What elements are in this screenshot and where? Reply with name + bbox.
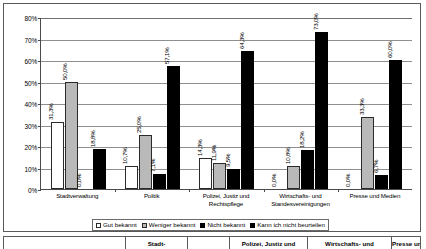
- bar-group: 10,7%25,0%7,1%57,1%: [115, 18, 189, 189]
- bar-value-label: 31,3%: [47, 103, 54, 120]
- y-axis-tick-label: 70%: [25, 36, 37, 43]
- bar-group-bars: 14,3%11,9%9,5%64,3%: [189, 18, 263, 189]
- bar[interactable]: [361, 117, 374, 189]
- legend-item[interactable]: Weniger bekannt: [142, 221, 196, 229]
- bar-slot: 18,8%: [93, 18, 106, 189]
- bar[interactable]: [167, 66, 180, 189]
- table-header-cell: Polizei, Justiz und: [230, 237, 308, 249]
- bar[interactable]: [389, 60, 402, 189]
- bar[interactable]: [125, 166, 138, 189]
- bar-slot: 14,3%: [199, 18, 212, 189]
- bar[interactable]: [153, 174, 166, 189]
- bar-slot: 7,1%: [153, 18, 166, 189]
- table-header-cell: [4, 237, 126, 249]
- table-header-cell: Stadt-: [126, 237, 188, 249]
- bar-slot: 73,0%: [315, 18, 328, 189]
- category-label-2: Politik: [114, 192, 188, 212]
- chart-frame: 0%10%20%30%40%50%60%70%80% 31,3%50,0%0,0…: [3, 3, 421, 232]
- legend-item[interactable]: Nicht bekannt: [200, 221, 245, 229]
- bar-slot: 60,0%: [389, 18, 402, 189]
- legend-label: Weniger bekannt: [149, 221, 196, 229]
- legend-label: Nicht bekannt: [207, 221, 245, 229]
- category-label-3: Polizei, Justiz und Rechtspflege: [189, 192, 263, 212]
- bar-group: 14,3%11,9%9,5%64,3%: [189, 18, 263, 189]
- y-tick-mark: [38, 190, 41, 191]
- bar-value-label: 0,0%: [269, 174, 276, 187]
- y-axis-tick-label: 0%: [28, 187, 37, 194]
- bar-value-label: 10,7%: [121, 147, 128, 164]
- category-label-1: Stadtverwaltung: [40, 192, 114, 212]
- y-axis-tick-label: 10%: [25, 165, 37, 172]
- bar[interactable]: [287, 166, 300, 189]
- plot-area: 0%10%20%30%40%50%60%70%80% 31,3%50,0%0,0…: [40, 18, 412, 190]
- bar-value-label: 33,3%: [357, 99, 364, 116]
- legend-label: Gut bekannt: [103, 221, 137, 229]
- category-axis-labels: StadtverwaltungPolitikPolizei, Justiz un…: [40, 192, 412, 212]
- category-label-4: Wirtschafts- und Standesvereinigungen: [263, 192, 337, 212]
- legend-swatch-icon: [200, 223, 205, 228]
- chart-legend: Gut bekanntWeniger bekanntNicht bekanntK…: [92, 219, 329, 231]
- bar[interactable]: [213, 163, 226, 189]
- legend-label: Kann ich nicht beurteilen: [257, 221, 325, 229]
- bar-value-label: 73,0%: [311, 14, 318, 31]
- legend-swatch-icon: [96, 223, 101, 228]
- bar-value-label: 0,0%: [343, 174, 350, 187]
- bar-value-label: 50,0%: [61, 63, 68, 80]
- table-header-cell: Presse und: [392, 237, 421, 249]
- y-axis-tick-label: 60%: [25, 58, 37, 65]
- bar-group-bars: 0,0%33,3%6,7%60,0%: [338, 18, 412, 189]
- bar-slot: 57,1%: [167, 18, 180, 189]
- y-axis-tick-label: 30%: [25, 122, 37, 129]
- bar-group: 31,3%50,0%0,0%18,8%: [41, 18, 115, 189]
- bar[interactable]: [227, 169, 240, 189]
- bar-value-label: 6,7%: [371, 159, 378, 172]
- bar[interactable]: [93, 149, 106, 189]
- bar-slot: 50,0%: [65, 18, 78, 189]
- bar-value-label: 60,0%: [385, 41, 392, 58]
- data-table-header-row: Stadt-Polizei, Justiz undWirtschafts- un…: [3, 236, 421, 249]
- bar-value-label: 25,0%: [135, 117, 142, 134]
- bar[interactable]: [315, 32, 328, 189]
- bar-group: 0,0%33,3%6,7%60,0%: [338, 18, 412, 189]
- y-axis-tick-label: 20%: [25, 144, 37, 151]
- bar-value-label: 10,8%: [283, 147, 290, 164]
- bar-value-label: 11,9%: [209, 145, 216, 161]
- category-label-5: Presse und Medien: [338, 192, 412, 212]
- bar[interactable]: [51, 122, 64, 189]
- bar-value-label: 9,5%: [223, 153, 230, 166]
- bar-group-bars: 10,7%25,0%7,1%57,1%: [115, 18, 189, 189]
- y-axis-tick-label: 50%: [25, 79, 37, 86]
- table-header-cell: Wirtschafts- und: [308, 237, 392, 249]
- legend-item[interactable]: Gut bekannt: [96, 221, 137, 229]
- bar[interactable]: [241, 51, 254, 189]
- bar-value-label: 7,1%: [149, 158, 156, 171]
- bar-group-bars: 31,3%50,0%0,0%18,8%: [41, 18, 115, 189]
- bar-value-label: 57,1%: [163, 48, 170, 65]
- bar-group-bars: 0,0%10,8%18,2%73,0%: [264, 18, 338, 189]
- legend-item[interactable]: Kann ich nicht beurteilen: [250, 221, 325, 229]
- bar-slot: 10,8%: [287, 18, 300, 189]
- bar-value-label: 64,3%: [237, 32, 244, 49]
- chart-page: 0%10%20%30%40%50%60%70%80% 31,3%50,0%0,0…: [0, 0, 426, 249]
- y-axis-tick-label: 80%: [25, 15, 37, 22]
- bar-value-label: 18,2%: [297, 131, 304, 148]
- bar-value-label: 0,0%: [75, 174, 82, 187]
- bar-slot: 10,7%: [125, 18, 138, 189]
- bar-group: 0,0%10,8%18,2%73,0%: [264, 18, 338, 189]
- bar-slot: 64,3%: [241, 18, 254, 189]
- bar-slot: 31,3%: [51, 18, 64, 189]
- bar-slot: 18,2%: [301, 18, 314, 189]
- legend-swatch-icon: [142, 223, 147, 228]
- bar-groups: 31,3%50,0%0,0%18,8%10,7%25,0%7,1%57,1%14…: [41, 18, 412, 189]
- bar-value-label: 18,8%: [89, 130, 96, 147]
- legend-swatch-icon: [250, 223, 255, 228]
- table-header-cell: [188, 237, 230, 249]
- bar[interactable]: [375, 175, 388, 189]
- y-axis-tick-label: 40%: [25, 101, 37, 108]
- bar-slot: 0,0%: [79, 18, 92, 189]
- bar-value-label: 14,3%: [195, 140, 202, 157]
- bar[interactable]: [199, 158, 212, 189]
- bar[interactable]: [301, 150, 314, 189]
